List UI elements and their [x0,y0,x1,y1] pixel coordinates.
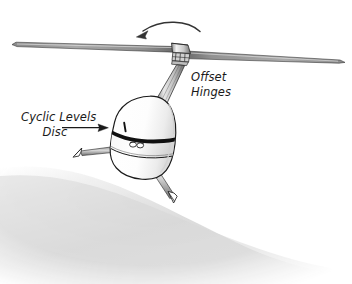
helicopter-diagram: Offset Hinges Cyclic Levels Disc [0,0,352,284]
fuselage-dome [110,96,176,179]
cyclic-levels-disc-label-line2: Disc [43,125,68,139]
rotor-hub-hinge-block [172,53,190,62]
rotor-blade-left [12,42,174,52]
ground-shadow [0,166,352,284]
annotation-cyclic-levels-disc: Cyclic Levels Disc [21,110,96,139]
cyclic-levels-disc-label-line1: Cyclic Levels [21,110,96,124]
rotor-rotation-arrow [136,22,200,39]
rotor-blade-right [186,51,345,63]
annotation-offset-hinges: Offset Hinges [191,70,231,99]
cyclic-leader-arrowhead [98,124,108,132]
rotor-hub [172,43,191,65]
cyclic-leader-arrow [62,124,108,132]
offset-hinges-label-line2: Hinges [191,85,231,99]
rotation-arrowhead [136,31,148,39]
offset-hinges-label-line1: Offset [191,70,227,84]
diagram-canvas: Offset Hinges Cyclic Levels Disc [0,0,352,284]
